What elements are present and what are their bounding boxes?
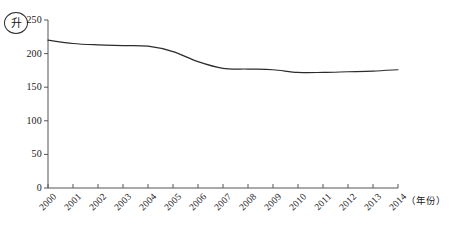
x-axis-ticks [48,184,398,188]
y-axis-ticks [44,20,48,188]
y-tick-label: 50 [10,149,42,159]
y-tick-label: 0 [10,183,42,193]
y-tick-label: 200 [10,49,42,59]
data-series-line [48,40,398,72]
y-tick-label: 100 [10,116,42,126]
x-axis-title: （年份） [406,196,446,206]
y-tick-label: 250 [10,15,42,25]
y-tick-label: 150 [10,82,42,92]
line-chart: 升 050100150200250 2000200120022003200420… [0,0,456,228]
